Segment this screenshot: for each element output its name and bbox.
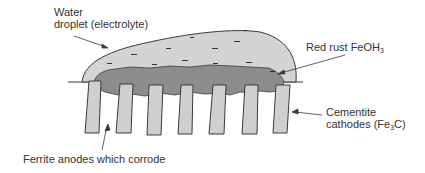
arrowhead-icon bbox=[105, 124, 110, 131]
water-droplet-label: Water droplet (electrolyte) bbox=[54, 6, 148, 30]
cementite-plate bbox=[273, 85, 290, 133]
water-label-line1: Water bbox=[54, 6, 148, 18]
rust-label-text: Red rust FeOH bbox=[306, 41, 380, 53]
cementite-plate bbox=[242, 85, 258, 134]
cementite-plate bbox=[178, 85, 193, 134]
cementite-plate bbox=[147, 85, 163, 135]
cementite-label-line1: Cementite bbox=[326, 106, 406, 118]
cementite-formula-pre: cathodes (Fe bbox=[326, 118, 390, 130]
rust-label-subscript: 3 bbox=[380, 47, 384, 54]
cementite-formula-post: C) bbox=[394, 118, 406, 130]
ferrite-anodes-label: Ferrite anodes which corrode bbox=[23, 153, 165, 165]
cementite-label: Cementite cathodes (Fe3C) bbox=[326, 106, 406, 130]
cementite-label-line2: cathodes (Fe3C) bbox=[326, 118, 406, 130]
water-label-line2: droplet (electrolyte) bbox=[54, 18, 148, 30]
arrowhead-icon bbox=[102, 44, 108, 48]
arrowhead-icon bbox=[292, 109, 298, 114]
cementite-plate bbox=[85, 81, 101, 133]
red-rust-label: Red rust FeOH3 bbox=[306, 41, 384, 53]
